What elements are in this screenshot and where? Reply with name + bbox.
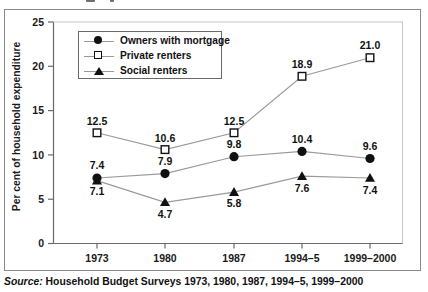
data-label-private-renters-1994-5: 18.9 xyxy=(280,59,324,70)
filled-triangle-icon xyxy=(94,67,104,75)
data-label-owners-with-mortgage-1973: 7.4 xyxy=(77,160,117,171)
data-label-social-renters-1973: 7.1 xyxy=(77,186,117,197)
legend-item-owners-with-mortgage[interactable]: Owners with mortgage xyxy=(79,33,223,49)
data-label-private-renters-1999-2000: 21.0 xyxy=(348,40,392,51)
y-tick-label-25: 25 xyxy=(18,17,44,28)
open-square-icon xyxy=(94,51,102,59)
x-tick-label-1999-2000: 1999–2000 xyxy=(336,253,404,264)
x-tick-label-1994-5: 1994–5 xyxy=(272,253,332,264)
source-caption: Source: Household Budget Surveys 1973, 1… xyxy=(4,276,424,287)
data-label-social-renters-1987: 5.8 xyxy=(214,198,254,209)
y-tick-label-15: 15 xyxy=(18,105,44,116)
data-label-private-renters-1987: 12.5 xyxy=(212,116,256,127)
figure-container: Per cent of household expenditure 25 20 … xyxy=(0,0,428,292)
x-tick-label-1987: 1987 xyxy=(204,253,264,264)
legend-label-private-renters: Private renters xyxy=(120,48,191,64)
data-label-owners-with-mortgage-1994-5: 10.4 xyxy=(280,134,324,145)
chart-legend: Owners with mortgage Private renters Soc… xyxy=(78,31,222,79)
data-label-owners-with-mortgage-1980: 7.9 xyxy=(145,156,185,167)
data-label-private-renters-1980: 10.6 xyxy=(143,133,187,144)
legend-item-social-renters[interactable]: Social renters xyxy=(79,63,223,79)
data-label-social-renters-1999-2000: 7.4 xyxy=(350,185,390,196)
data-label-private-renters-1973: 12.5 xyxy=(75,116,119,127)
y-tick-label-0: 0 xyxy=(18,238,44,249)
cropped-title-sliver xyxy=(0,0,428,5)
x-tick-label-1973: 1973 xyxy=(67,253,127,264)
data-label-owners-with-mortgage-1999-2000: 9.6 xyxy=(350,141,390,152)
legend-label-owners-with-mortgage: Owners with mortgage xyxy=(120,33,230,49)
y-tick-label-20: 20 xyxy=(18,61,44,72)
data-label-owners-with-mortgage-1987: 9.8 xyxy=(214,139,254,150)
filled-circle-icon xyxy=(94,36,102,44)
legend-item-private-renters[interactable]: Private renters xyxy=(79,48,223,64)
data-label-social-renters-1980: 4.7 xyxy=(145,209,185,220)
x-tick-label-1980: 1980 xyxy=(135,253,195,264)
y-tick-label-5: 5 xyxy=(18,194,44,205)
source-text: Household Budget Surveys 1973, 1980, 198… xyxy=(43,276,364,287)
legend-label-social-renters: Social renters xyxy=(120,63,187,79)
data-label-social-renters-1994-5: 7.6 xyxy=(282,183,322,194)
y-tick-label-10: 10 xyxy=(18,150,44,161)
source-word: Source: xyxy=(4,276,43,287)
